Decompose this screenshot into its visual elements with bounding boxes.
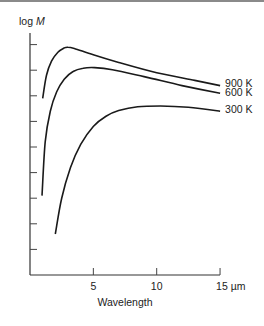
curve-300k xyxy=(55,106,220,234)
x-tick-label: 5 xyxy=(90,280,96,292)
chart: 51015 µm 900 K600 K300 K log M Wavelengt… xyxy=(0,0,264,326)
x-tick-label: 10 xyxy=(151,280,163,292)
y-axis-label: log M xyxy=(19,15,45,27)
series-labels: 900 K600 K300 K xyxy=(225,77,252,116)
y-ticks xyxy=(30,45,37,250)
axes: 51015 µm xyxy=(30,33,246,292)
curves xyxy=(42,47,220,234)
curve-600k xyxy=(42,68,220,196)
x-axis-label: Wavelength xyxy=(97,296,152,308)
curve-900k xyxy=(43,47,220,98)
x-tick-label: 15 µm xyxy=(216,280,246,292)
x-ticks: 51015 µm xyxy=(90,268,245,292)
series-label-600k: 600 K xyxy=(225,86,252,98)
series-label-300k: 300 K xyxy=(225,103,252,115)
